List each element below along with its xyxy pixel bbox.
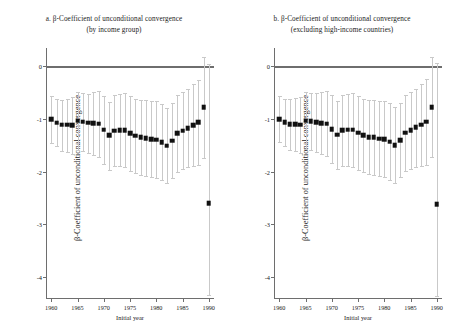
panel-b-title: b. β-Coefficient of unconditional conver… xyxy=(228,14,456,35)
data-point-marker xyxy=(398,138,403,143)
error-bar-cap xyxy=(294,98,298,99)
error-bar-cap xyxy=(393,183,397,184)
error-bar-cap xyxy=(425,79,429,80)
error-bar-cap xyxy=(118,94,122,95)
error-bar-cap xyxy=(150,177,154,178)
error-bar-cap xyxy=(346,94,350,95)
error-bar-cap xyxy=(155,178,159,179)
error-bar-cap xyxy=(66,152,70,153)
x-axis-tick xyxy=(384,298,385,302)
error-bar-cap xyxy=(155,101,159,102)
panel-b: b. β-Coefficient of unconditional conver… xyxy=(228,0,456,336)
error-bar-cap xyxy=(129,96,133,97)
data-point-marker xyxy=(382,137,387,142)
error-bar-cap xyxy=(55,146,59,147)
y-axis-tick-label: -2 xyxy=(37,168,42,175)
y-axis-tick xyxy=(271,277,275,278)
error-bar-cap xyxy=(341,95,345,96)
data-point-marker xyxy=(75,118,80,123)
error-bar-cap xyxy=(430,157,434,158)
data-point-marker xyxy=(164,144,169,149)
error-bar-cap xyxy=(430,57,434,58)
error-bar-cap xyxy=(108,170,112,171)
error-bar-cap xyxy=(325,156,329,157)
data-point-marker xyxy=(429,105,434,110)
error-bar-cap xyxy=(76,150,80,151)
data-point-marker xyxy=(191,123,196,128)
error-bar-cap xyxy=(97,91,101,92)
x-axis-tick xyxy=(183,298,184,302)
y-axis-tick xyxy=(43,119,47,120)
error-bar-cap xyxy=(171,178,175,179)
error-bar-cap xyxy=(92,92,96,93)
error-bar-cap xyxy=(304,149,308,150)
data-point-marker xyxy=(434,202,439,207)
error-bar-cap xyxy=(372,175,376,176)
error-bar-cap xyxy=(409,92,413,93)
data-point-marker xyxy=(371,135,376,140)
data-point-marker xyxy=(319,121,324,126)
x-axis-tick-label: 1970 xyxy=(98,304,110,311)
error-bar-cap xyxy=(399,177,403,178)
error-bar-cap xyxy=(123,167,127,168)
x-axis-tick xyxy=(156,298,157,302)
error-bar-cap xyxy=(160,180,164,181)
error-bar-cap xyxy=(330,95,334,96)
data-point-marker xyxy=(143,136,148,141)
error-bar-cap xyxy=(383,101,387,102)
error-bar-cap xyxy=(425,165,429,166)
data-point-marker xyxy=(59,123,64,128)
data-point-marker xyxy=(350,127,355,132)
y-axis-tick-label: -2 xyxy=(265,168,270,175)
error-bar-cap xyxy=(283,146,287,147)
error-bar-cap xyxy=(357,170,361,171)
error-bar-cap xyxy=(367,174,371,175)
error-bar-cap xyxy=(176,172,180,173)
y-axis-tick-label: -1 xyxy=(265,116,270,123)
x-axis-tick-label: 1975 xyxy=(352,304,364,311)
data-point-marker xyxy=(196,120,201,125)
error-bar-cap xyxy=(97,157,101,158)
error-bar-cap xyxy=(315,152,319,153)
x-axis-tick-label: 1965 xyxy=(299,304,311,311)
data-point-marker xyxy=(149,137,154,142)
data-point-marker xyxy=(356,130,361,135)
error-bar-cap xyxy=(420,84,424,85)
y-axis-tick xyxy=(43,277,47,278)
x-axis-tick-label: 1985 xyxy=(404,304,416,311)
data-point-marker xyxy=(282,120,287,125)
error-bar-cap xyxy=(87,153,91,154)
data-point-marker xyxy=(424,119,429,124)
data-point-marker xyxy=(308,119,313,124)
figure-container: a. β-Coefficient of unconditional conver… xyxy=(0,0,457,336)
error-bar-cap xyxy=(378,176,382,177)
error-bar-cap xyxy=(144,100,148,101)
error-bar-cap xyxy=(113,95,117,96)
data-point-marker xyxy=(154,137,159,142)
data-point-marker xyxy=(112,128,117,133)
error-bar-cap xyxy=(92,155,96,156)
data-point-marker xyxy=(340,128,345,133)
data-point-marker xyxy=(117,128,122,133)
error-bar-cap xyxy=(351,167,355,168)
data-point-marker xyxy=(96,121,101,126)
x-axis-title: Initial year xyxy=(274,314,442,321)
data-point-marker xyxy=(408,128,413,133)
data-point-marker xyxy=(65,123,70,128)
data-point-marker xyxy=(377,136,382,141)
panel-b-title-line2: (excluding high-income countries) xyxy=(291,26,394,34)
error-bar-cap xyxy=(341,166,345,167)
data-point-marker xyxy=(324,121,329,126)
data-point-marker xyxy=(159,140,164,145)
y-axis-tick-label: -4 xyxy=(37,273,42,280)
x-axis-title: Initial year xyxy=(46,314,214,321)
x-axis-tick xyxy=(437,298,438,302)
x-axis-tick xyxy=(104,298,105,302)
error-bar-cap xyxy=(288,150,292,151)
x-axis-tick-label: 1985 xyxy=(176,304,188,311)
data-point-marker xyxy=(49,117,54,122)
panel-b-plot-area: 0-1-2-3-41960196519701975198019851990Ini… xyxy=(274,48,442,298)
error-bar-cap xyxy=(171,103,175,104)
y-axis-tick-label: -3 xyxy=(265,221,270,228)
data-point-marker xyxy=(206,201,211,206)
